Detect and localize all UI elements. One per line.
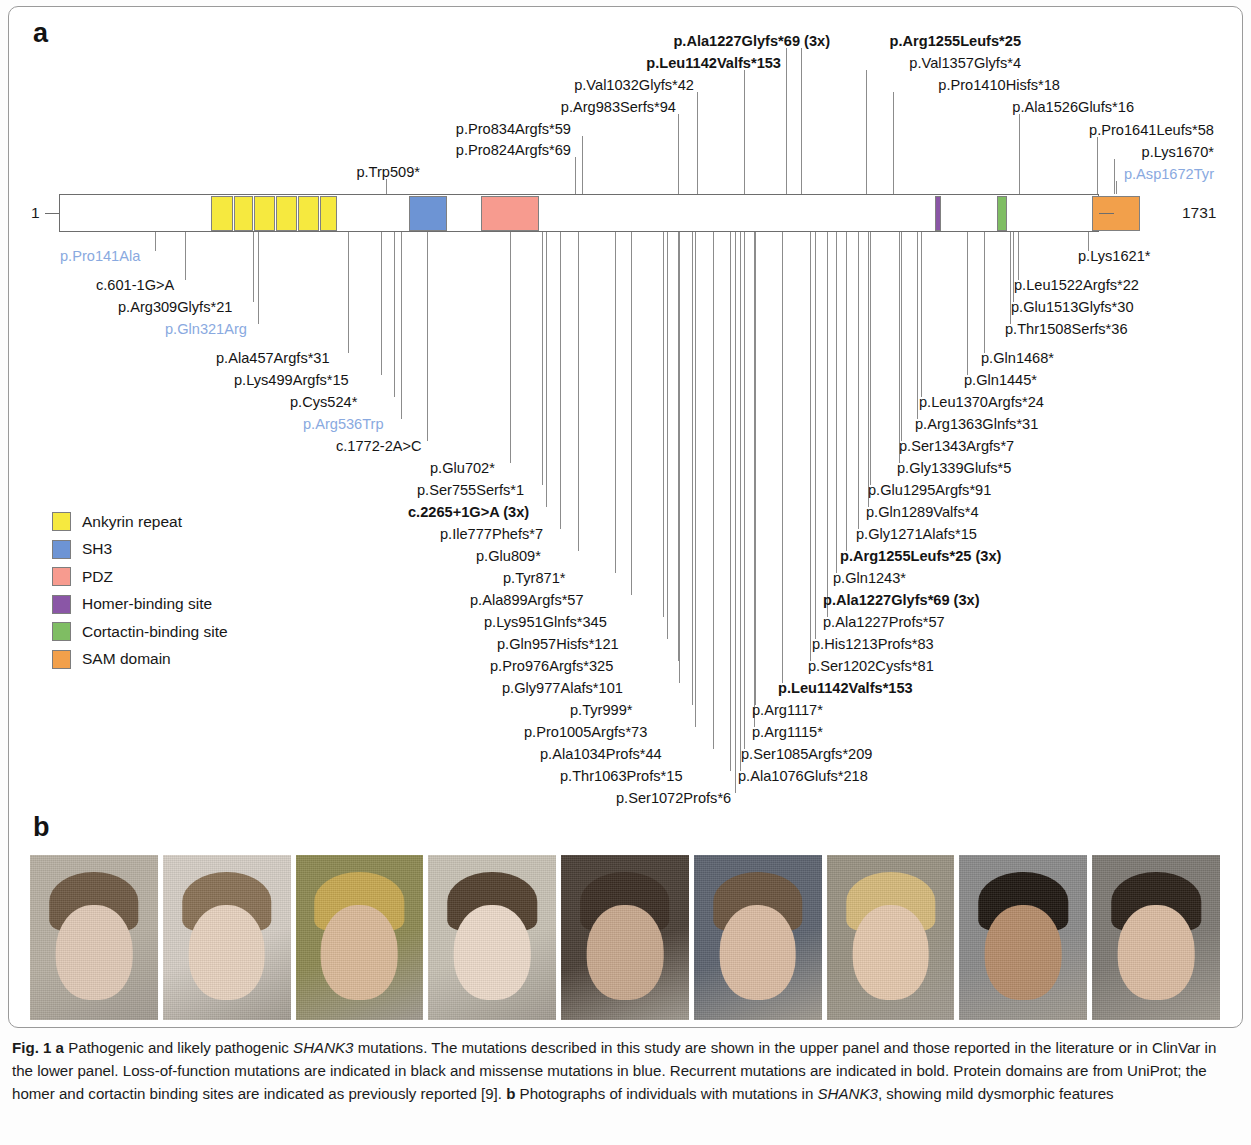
mutation-label: p.Arg1255Leufs*25 (3x) xyxy=(840,549,1001,564)
mutation-label: p.Val1357Glyfs*4 xyxy=(909,56,1021,71)
mutation-label: p.Arg309Glyfs*21 xyxy=(118,300,232,315)
leader-line xyxy=(744,232,745,749)
mutation-label: p.Ala1034Profs*44 xyxy=(540,747,662,762)
leader-line xyxy=(386,179,387,194)
legend-color-swatch xyxy=(52,595,71,614)
caption-panel-a-tag: a xyxy=(56,1039,64,1056)
figure-caption: Fig. 1 a Pathogenic and likely pathogeni… xyxy=(12,1036,1240,1105)
panel-b-letter: b xyxy=(33,812,49,843)
leader-line xyxy=(697,92,698,194)
legend-color-swatch xyxy=(52,512,71,531)
patient-photo xyxy=(1092,855,1220,1020)
mutation-label: p.Ala457Argfs*31 xyxy=(216,351,330,366)
mutation-label: p.Ala1227Glyfs*69 (3x) xyxy=(823,593,980,608)
leader-line xyxy=(1018,232,1019,280)
mutation-label: p.Lys499Argfs*15 xyxy=(234,373,349,388)
leader-line xyxy=(663,232,664,617)
mutation-label: p.Asp1672Tyr xyxy=(1124,167,1214,182)
mutation-label: p.Pro1641Leufs*58 xyxy=(1089,123,1214,138)
mutation-label: p.Leu1522Argfs*22 xyxy=(1014,278,1139,293)
leader-line xyxy=(801,48,802,194)
leader-line xyxy=(917,232,918,419)
mutation-label: p.Leu1142Valfs*153 xyxy=(646,56,781,71)
mutation-label: p.Arg1117* xyxy=(752,703,823,718)
mutation-label: p.Arg1255Leufs*25 xyxy=(890,34,1021,49)
leader-line xyxy=(578,232,579,551)
mutation-label: p.Glu1295Argfs*91 xyxy=(868,483,991,498)
photo-grain-overlay xyxy=(561,855,689,1020)
mutation-label: p.Leu1142Valfs*153 xyxy=(778,681,913,696)
legend-color-swatch xyxy=(52,650,71,669)
leader-line xyxy=(870,232,871,485)
protein-domain xyxy=(997,196,1007,231)
leader-line xyxy=(755,232,756,705)
leader-line xyxy=(678,114,679,194)
mutation-label: p.Arg536Trp xyxy=(303,417,384,432)
leader-line xyxy=(866,70,867,194)
mutation-label: p.Ser1202Cysfs*81 xyxy=(808,659,934,674)
protein-domain xyxy=(320,196,337,231)
legend-item-label: Cortactin-binding site xyxy=(82,623,228,641)
mutation-label: p.Ala1227Glyfs*69 (3x) xyxy=(673,34,830,49)
leader-line xyxy=(1114,159,1115,194)
protein-domain xyxy=(298,196,319,231)
photo-grain-overlay xyxy=(694,855,822,1020)
protein-domain xyxy=(935,196,941,231)
leader-line xyxy=(858,232,859,529)
mutation-label: p.Lys951Glnfs*345 xyxy=(484,615,607,630)
leader-line xyxy=(782,232,783,683)
caption-figure-number: Fig. 1 xyxy=(12,1039,56,1056)
leader-line xyxy=(893,92,894,194)
legend-item: Homer-binding site xyxy=(52,591,228,619)
protein-domain xyxy=(211,196,233,231)
n-terminus-label: 1 xyxy=(31,204,40,222)
patient-photo xyxy=(561,855,689,1020)
leader-line xyxy=(692,232,693,705)
mutation-label: c.601-1G>A xyxy=(96,278,174,293)
leader-line xyxy=(868,232,869,507)
patient-photo xyxy=(428,855,556,1020)
mutation-label: p.Gly1339Glufs*5 xyxy=(897,461,1011,476)
patient-photo xyxy=(296,855,424,1020)
leader-line xyxy=(836,232,837,573)
photo-grain-overlay xyxy=(428,855,556,1020)
leader-line xyxy=(542,232,543,485)
leader-line xyxy=(615,232,616,573)
mutation-label: p.Pro976Argfs*325 xyxy=(490,659,613,674)
mutation-label: p.Ser755Serfs*1 xyxy=(417,483,524,498)
mutation-label: p.Gly1271Alafs*15 xyxy=(856,527,977,542)
leader-line xyxy=(1116,181,1117,194)
leader-line xyxy=(679,232,680,683)
leader-line xyxy=(901,232,902,441)
leader-line xyxy=(899,232,900,463)
mutation-label: p.Pro1005Argfs*73 xyxy=(524,725,647,740)
leader-line xyxy=(401,232,402,419)
mutation-label: p.Gln1445* xyxy=(964,373,1037,388)
n-terminus-tick xyxy=(45,213,59,214)
leader-line xyxy=(1097,137,1098,194)
photo-grain-overlay xyxy=(1092,855,1220,1020)
legend-item-label: PDZ xyxy=(82,568,113,586)
leader-line xyxy=(631,232,632,595)
patient-photo xyxy=(959,855,1087,1020)
leader-line xyxy=(695,232,696,727)
patient-photo xyxy=(694,855,822,1020)
legend-color-swatch xyxy=(52,567,71,586)
mutation-label: p.Pro1410Hisfs*18 xyxy=(938,78,1060,93)
leader-line xyxy=(815,232,816,639)
protein-domain xyxy=(254,196,275,231)
caption-gene-name: SHANK3 xyxy=(817,1085,877,1102)
legend-item: Cortactin-binding site xyxy=(52,618,228,646)
mutation-label: p.Arg983Serfs*94 xyxy=(561,100,676,115)
mutation-label: p.His1213Profs*83 xyxy=(812,637,934,652)
leader-line xyxy=(348,232,349,353)
mutation-label: p.Ser1072Profs*6 xyxy=(616,791,731,806)
mutation-label: p.Thr1508Serfs*36 xyxy=(1005,322,1128,337)
leader-line xyxy=(1019,114,1020,194)
c-terminus-tick xyxy=(1099,213,1114,214)
leader-line xyxy=(846,232,847,551)
leader-line xyxy=(546,232,547,507)
mutation-label: c.1772-2A>C xyxy=(336,439,422,454)
legend-item: SH3 xyxy=(52,536,228,564)
leader-line xyxy=(560,232,561,529)
